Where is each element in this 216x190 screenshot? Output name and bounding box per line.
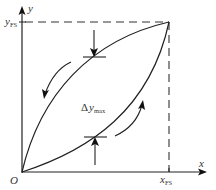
- x-axis: [22, 169, 207, 176]
- unloading-direction-arrow-icon: [45, 62, 71, 94]
- delta-y-max-label: Δymax: [81, 101, 106, 114]
- unloading-arrowhead-icon: [42, 89, 49, 99]
- origin-label: O: [10, 174, 18, 186]
- x-fullscale-label: xFS: [159, 173, 173, 186]
- y-axis-label: y: [27, 2, 33, 14]
- loading-direction-arrow-icon: [115, 105, 142, 136]
- upper-max-marker: [83, 30, 106, 57]
- hysteresis-diagram: y x O yFS xFS Δymax: [0, 0, 216, 190]
- lower-max-marker: [84, 137, 107, 165]
- x-axis-label: x: [198, 157, 204, 169]
- y-fullscale-label: yFS: [4, 15, 18, 28]
- y-axis: [19, 6, 26, 173]
